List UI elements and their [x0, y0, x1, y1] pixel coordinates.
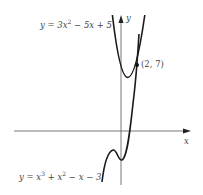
graph-diagram: y = 3x2 − 5x + 5 y x (2, 7) y = x3 + x2 …: [0, 0, 203, 195]
x-axis-label: x: [184, 136, 189, 146]
y-axis-arrow-icon: [119, 15, 124, 23]
x-axis-arrow-icon: [183, 129, 191, 134]
parabola-eq-suffix: − 5x + 5: [71, 20, 112, 30]
cubic-eq-mid: + x: [45, 172, 62, 182]
y-axis-label: y: [126, 13, 131, 23]
cubic-eq-suffix: − x − 3: [66, 172, 101, 182]
parabola-curve: [112, 15, 144, 78]
intersection-point-label: (2, 7): [141, 59, 164, 69]
parabola-equation-label: y = 3x2 − 5x + 5: [40, 18, 112, 30]
intersection-point-marker: [135, 63, 139, 67]
cubic-equation-label: y = x3 + x2 − x − 3: [19, 170, 101, 182]
cubic-curve: [102, 34, 139, 182]
cubic-eq-prefix: y = x: [19, 172, 41, 182]
parabola-eq-prefix: y = 3x: [40, 20, 68, 30]
